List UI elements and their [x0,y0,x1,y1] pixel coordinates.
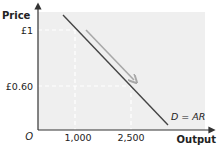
y-tick-060: £0.60 [6,81,33,92]
y-axis-label: Price [2,10,31,21]
curve-label: D = AR [171,111,205,122]
demand-chart: Price £1 £0.60 O 1,000 2,500 Output D = … [0,0,220,151]
x-tick-2500: 2,500 [117,132,144,143]
y-tick-1: £1 [21,25,33,36]
x-tick-1000: 1,000 [64,132,91,143]
origin-label: O [25,131,33,142]
x-axis-label: Output [177,134,217,145]
